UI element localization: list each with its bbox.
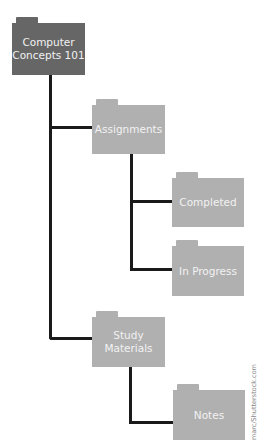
folder-label: Computer [12,36,84,49]
folder-label: Concepts 101 [12,49,84,62]
folder-label: Completed [172,178,244,227]
folder-label: Materials [104,342,152,355]
connector-study-notes [129,421,173,424]
folder-assignments[interactable]: Assignments [92,99,165,154]
connector-assignments-completed [130,200,172,203]
folder-label: In Progress [172,246,244,296]
connector-root-assignments [49,126,92,129]
folder-label: Assignments [92,105,165,154]
connector-root-trunk [49,74,52,340]
folder-in-progress[interactable]: In Progress [172,240,244,296]
folder-computer-concepts-101[interactable]: ComputerConcepts 101 [12,17,85,75]
folder-notes[interactable]: Notes [173,384,245,440]
connector-root-study [49,337,93,340]
connector-assignments-inprogress [130,268,172,271]
connector-assignments-trunk [130,153,133,271]
folder-label: Notes [173,390,245,440]
connector-study-trunk [129,367,132,424]
folder-completed[interactable]: Completed [172,172,244,227]
folder-study-materials[interactable]: StudyMaterials [92,311,165,367]
folder-label: Study [104,329,152,342]
image-credit: marc/Shutterstock.com [250,364,258,440]
